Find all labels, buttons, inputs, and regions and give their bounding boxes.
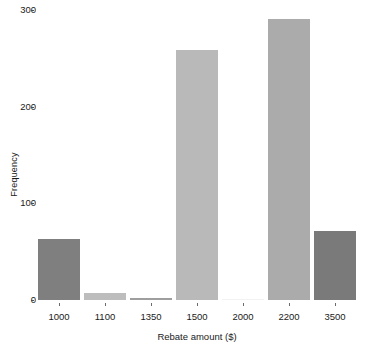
y-axis-tick-mark: [31, 10, 34, 11]
x-axis-tick-mark: [243, 303, 244, 306]
x-axis-tick-mark: [197, 303, 198, 306]
bar-chart: Frequency 300 200 100 0 1000 1100 1350 1…: [0, 0, 366, 349]
x-axis-tick-label: 3500: [305, 310, 365, 323]
x-axis-tick-mark: [335, 303, 336, 306]
bar-1000[interactable]: [38, 239, 81, 300]
bar-1350[interactable]: [130, 298, 173, 300]
plot-area: [36, 10, 358, 300]
bar-1100[interactable]: [84, 293, 127, 300]
y-axis-tick-mark: [31, 300, 34, 301]
bar-1500[interactable]: [176, 50, 219, 300]
bar-3500[interactable]: [314, 231, 357, 300]
x-axis-tick-mark: [289, 303, 290, 306]
y-axis-tick-mark: [31, 203, 34, 204]
x-axis-tick-mark: [151, 303, 152, 306]
bar-2000[interactable]: [222, 299, 265, 300]
x-axis-title: Rebate amount ($): [36, 330, 358, 344]
x-axis-tick-mark: [105, 303, 106, 306]
y-axis-tick-mark: [31, 107, 34, 108]
bar-2200[interactable]: [268, 19, 311, 300]
x-axis-tick-mark: [59, 303, 60, 306]
